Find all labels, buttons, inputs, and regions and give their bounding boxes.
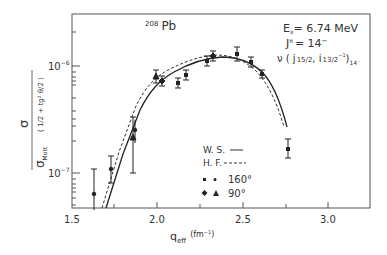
point-160	[183, 70, 189, 80]
xtick-2.0: 2.0	[149, 214, 165, 225]
svg-text:σMott: σMott	[33, 146, 48, 168]
legend-hf-label: H. F.	[203, 158, 222, 168]
legend-90-label: 90°	[228, 188, 246, 199]
spin-annotation: Jπ= 14−	[285, 37, 328, 50]
legend-ws-label: W. S.	[203, 145, 225, 155]
point-160	[175, 78, 181, 88]
legend-160-label: 160°	[228, 174, 252, 185]
xtick-2.5: 2.5	[235, 214, 251, 225]
svg-text:σ: σ	[16, 120, 31, 128]
point-160	[91, 169, 97, 210]
xtick-3.0: 3.0	[320, 214, 336, 225]
point-160	[108, 156, 114, 183]
hf-curve	[102, 55, 284, 208]
point-90	[210, 51, 216, 61]
ytick-1e-7: 10−7	[48, 166, 70, 179]
energy-annotation: Ex= 6.74 MeV	[283, 22, 358, 35]
point-160	[204, 56, 210, 66]
svg-text:( 1/2 + tg² θ/2 ): ( 1/2 + tg² θ/2 )	[37, 77, 45, 132]
legend-diamond-marker-icon	[202, 190, 208, 196]
point-160	[285, 139, 291, 158]
legend-dot-marker-icon	[214, 178, 217, 181]
point-90	[153, 70, 159, 83]
legend-triangle-marker-icon	[213, 190, 219, 196]
y-axis-label: σ σMott ( 1/2 + tg² θ/2 )	[16, 70, 48, 170]
x-axis-ticks	[114, 202, 328, 208]
point-90	[159, 76, 165, 86]
x-axis-label: qeff(fm−1)	[170, 229, 214, 245]
legend-square-marker-icon	[203, 178, 206, 181]
config-annotation: ν ( j15/2, i13/2−1)14⁻	[277, 52, 360, 66]
chart: 10−6 10−7 1.5 2.0 2.5 3.0 qeff(fm−1) σ σ…	[0, 0, 387, 255]
y-axis-ticks	[72, 32, 80, 205]
legend: W. S. H. F. 160° 90°	[202, 145, 253, 199]
ytick-1e-6: 10−6	[48, 59, 70, 72]
nucleus-title: 208Pb	[145, 19, 176, 33]
xtick-1.5: 1.5	[64, 214, 80, 225]
